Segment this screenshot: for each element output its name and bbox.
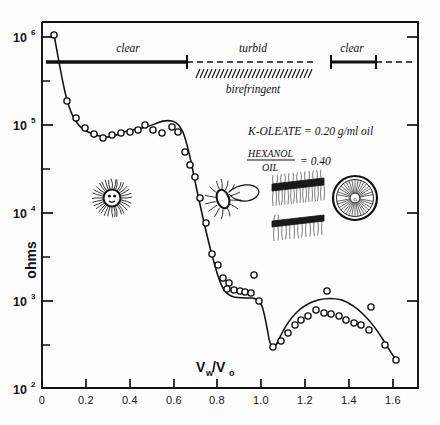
- data-point: [248, 290, 254, 296]
- data-point: [118, 130, 124, 136]
- data-point: [203, 220, 209, 226]
- phase-label-clear-1: clear: [116, 42, 140, 54]
- x-tick-label-0.4: 0.4: [122, 394, 138, 406]
- data-point: [368, 304, 374, 310]
- data-point: [292, 322, 298, 328]
- data-point: [393, 357, 399, 363]
- data-point: [226, 280, 232, 286]
- y-tick-label-1e3-base: 10: [13, 295, 27, 309]
- spherulite-core-label: O: [353, 197, 357, 202]
- data-point: [64, 98, 70, 104]
- x-tick-label-1.4: 1.4: [341, 394, 357, 406]
- composition-k-oleate: K-OLEATE = 0.20 g/ml oil: [247, 125, 373, 138]
- y-tick-label-1e4-base: 10: [13, 207, 27, 221]
- data-point: [220, 275, 226, 281]
- data-point: [256, 298, 262, 304]
- data-point: [150, 127, 156, 133]
- y-tick-label-1e2-exp: 2: [31, 380, 36, 389]
- x-tick-label-0.8: 0.8: [209, 394, 225, 406]
- y-axis-title: ohms: [23, 241, 39, 279]
- x-axis-title-v: V: [196, 359, 206, 375]
- data-point: [358, 322, 364, 328]
- data-point: [251, 272, 257, 278]
- data-point: [366, 327, 372, 333]
- x-tick-label-0.6: 0.6: [166, 394, 182, 406]
- data-point: [336, 313, 342, 319]
- composition-oil-denominator: OIL: [262, 162, 279, 173]
- data-point: [285, 330, 291, 336]
- phase-label-turbid: turbid: [239, 42, 267, 54]
- data-point: [324, 288, 330, 294]
- data-point: [215, 262, 221, 268]
- x-tick-label-1.2: 1.2: [297, 394, 313, 406]
- data-point: [209, 251, 215, 257]
- data-point: [135, 127, 141, 133]
- data-point: [321, 310, 327, 316]
- spherulite-vesicle-icon: O: [333, 176, 377, 220]
- data-point: [175, 129, 181, 135]
- data-point: [328, 311, 334, 317]
- composition-hexanol-oil-value: = 0.40: [300, 155, 331, 167]
- data-point: [51, 32, 57, 38]
- data-point: [298, 317, 304, 323]
- data-point: [278, 338, 284, 344]
- data-point: [197, 195, 203, 201]
- y-tick-label-1e4-exp: 4: [31, 204, 36, 213]
- data-point: [224, 286, 230, 292]
- data-point: [127, 129, 133, 135]
- data-point: [82, 125, 88, 131]
- x-tick-label-1.6: 1.6: [385, 394, 401, 406]
- x-tick-labels: 0 0.2 0.4 0.6 0.8 1.0 1.2 1.4 1.6: [39, 394, 401, 406]
- data-point: [313, 307, 319, 313]
- phase-label-birefringent: birefringent: [226, 83, 281, 96]
- data-point: [73, 115, 79, 121]
- y-tick-label-1e5-base: 10: [13, 119, 27, 133]
- x-tick-label-0.2: 0.2: [78, 394, 94, 406]
- resistance-vs-water-oil-ratio-chart: 10 6 10 5 10 4 10 3 10 2 ohms 0: [0, 0, 440, 425]
- data-point: [192, 174, 198, 180]
- data-point: [343, 317, 349, 323]
- data-point: [182, 149, 188, 155]
- data-point: [242, 289, 248, 295]
- data-point: [382, 342, 388, 348]
- data-point: [187, 162, 193, 168]
- data-point: [142, 122, 148, 128]
- y-tick-label-1e2-base: 10: [13, 383, 27, 397]
- y-tick-label-1e6-base: 10: [13, 31, 27, 45]
- phase-label-clear-2: clear: [340, 42, 364, 54]
- data-point: [231, 287, 237, 293]
- y-tick-label-1e5-exp: 5: [31, 116, 36, 125]
- data-point: [270, 344, 276, 350]
- data-point: [100, 135, 106, 141]
- figure-container: 10 6 10 5 10 4 10 3 10 2 ohms 0: [0, 0, 440, 425]
- data-point: [169, 124, 175, 130]
- x-axis-title-slash: /V: [212, 359, 226, 375]
- data-point: [109, 132, 115, 138]
- composition-hexanol-numerator: HEXANOL: [247, 148, 293, 159]
- x-axis-title-o-sub: o: [229, 368, 235, 378]
- y-tick-label-1e6-exp: 6: [31, 28, 36, 37]
- y-tick-label-1e3-exp: 3: [31, 292, 36, 301]
- data-point: [159, 130, 165, 136]
- x-tick-label-0: 0: [39, 394, 45, 406]
- data-point: [351, 320, 357, 326]
- x-tick-label-1.0: 1.0: [253, 394, 269, 406]
- data-point: [305, 313, 311, 319]
- data-point: [91, 131, 97, 137]
